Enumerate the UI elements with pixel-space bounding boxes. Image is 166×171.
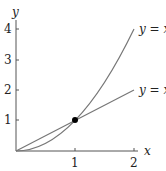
intersection-point — [72, 117, 78, 123]
y-tick-label-3: 3 — [4, 53, 12, 67]
chart: 1 2 3 4 1 2 y x y = x y = x — [0, 0, 166, 171]
y-tick-label-4: 4 — [4, 22, 12, 36]
y-axis-label: y — [11, 5, 19, 19]
curve1-label: y = x — [138, 22, 166, 36]
y-tick-label-1: 1 — [4, 113, 12, 127]
curve2-label: y = x — [138, 83, 166, 97]
x-tick-label-2: 2 — [130, 156, 138, 170]
x-axis-label: x — [144, 144, 151, 158]
curve-y-equals-x-squared — [16, 29, 134, 151]
x-tick-label-1: 1 — [71, 156, 79, 170]
y-tick-label-2: 2 — [4, 83, 12, 97]
